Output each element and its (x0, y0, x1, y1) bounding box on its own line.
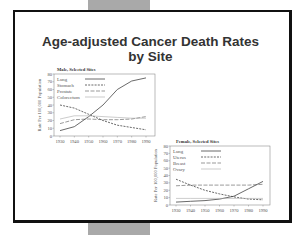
x-tick-label: 1930 (171, 208, 181, 213)
legend-label: Lung (173, 149, 184, 154)
y-tick-label: 80 (47, 72, 52, 77)
x-tick-label: 1940 (186, 208, 196, 213)
x-tick-label: 1970 (113, 139, 123, 144)
y-tick-label: 10 (163, 195, 168, 200)
x-tick-label: 1930 (55, 139, 65, 144)
legend-label: Prostate (57, 89, 72, 94)
x-tick-label: 1960 (98, 139, 108, 144)
charts-canvas: Male, Selected Sites01020304050607080193… (0, 0, 301, 235)
y-tick-label: 80 (163, 144, 168, 149)
y-tick-label: 30 (163, 180, 168, 185)
y-tick-label: 40 (163, 173, 168, 178)
chart-title: Male, Selected Sites (57, 67, 96, 72)
series-line-uterus (176, 179, 263, 200)
legend-label: Ovary (173, 167, 186, 172)
legend-label: Breast (173, 161, 186, 166)
x-tick-label: 1990 (258, 208, 268, 213)
legend-label: Lung (57, 77, 68, 82)
x-tick-label: 1960 (215, 208, 225, 213)
series-line-stomach (60, 105, 146, 130)
y-tick-label: 60 (47, 87, 52, 92)
y-tick-label: 60 (163, 158, 168, 163)
x-tick-label: 1950 (200, 208, 210, 213)
y-tick-label: 50 (163, 166, 168, 171)
legend-label: Colorectum (57, 95, 80, 100)
y-tick-label: 20 (47, 118, 52, 123)
x-tick-label: 1970 (229, 208, 239, 213)
x-tick-label: 1940 (70, 139, 80, 144)
legend-label: Uterus (173, 155, 186, 160)
y-tick-label: 40 (47, 103, 52, 108)
x-tick-label: 1980 (127, 139, 137, 144)
female-chart: Female, Selected Sites010203040506070801… (153, 139, 270, 213)
x-tick-label: 1990 (141, 139, 151, 144)
y-axis-label: Rate Per 100,000 Population (153, 148, 159, 202)
y-tick-label: 10 (47, 126, 52, 131)
y-tick-label: 70 (47, 79, 52, 84)
y-axis-label: Rate Per 100,000 Population (37, 78, 43, 132)
y-tick-label: 0 (50, 134, 53, 139)
y-tick-label: 0 (166, 203, 169, 208)
x-tick-label: 1980 (244, 208, 254, 213)
x-tick-label: 1950 (84, 139, 94, 144)
legend-label: Stomach (57, 83, 74, 88)
y-tick-label: 30 (47, 110, 52, 115)
chart-title: Female, Selected Sites (176, 139, 219, 144)
male-chart: Male, Selected Sites01020304050607080193… (37, 67, 155, 144)
y-tick-label: 50 (47, 95, 52, 100)
y-tick-label: 20 (163, 188, 168, 193)
y-tick-label: 70 (163, 151, 168, 156)
